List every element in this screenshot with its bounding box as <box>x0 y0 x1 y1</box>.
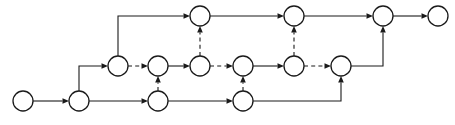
graph-node-b1[interactable] <box>69 91 89 111</box>
graph-arrowhead-e18 <box>338 76 344 83</box>
edge-layer <box>33 13 428 104</box>
graph-arrowhead-e10 <box>325 63 332 69</box>
graph-arrowhead-e19 <box>380 26 386 33</box>
graph-arrowhead-e02 <box>142 98 149 104</box>
node-circle-m3[interactable] <box>233 56 253 76</box>
node-circle-t2[interactable] <box>373 6 393 26</box>
graph-node-b2[interactable] <box>148 91 168 111</box>
graph-arrowhead-e04 <box>102 63 109 69</box>
graph-node-m1[interactable] <box>148 56 168 76</box>
graph-diagram <box>0 0 455 125</box>
graph-node-m0[interactable] <box>108 56 128 76</box>
node-circle-b1[interactable] <box>69 91 89 111</box>
node-circle-m2[interactable] <box>190 56 210 76</box>
graph-arrowhead-e03 <box>227 98 234 104</box>
graph-arrowhead-e05 <box>184 13 191 19</box>
graph-edge-e18 <box>253 83 341 102</box>
graph-node-m4[interactable] <box>284 56 304 76</box>
node-circle-m4[interactable] <box>284 56 304 76</box>
graph-arrowhead-e15 <box>278 13 285 19</box>
graph-canvas <box>0 0 455 125</box>
graph-arrowhead-e07 <box>184 63 191 69</box>
graph-arrowhead-e17 <box>422 13 429 19</box>
node-circle-m0[interactable] <box>108 56 128 76</box>
node-circle-b2[interactable] <box>148 91 168 111</box>
node-circle-m1[interactable] <box>148 56 168 76</box>
graph-arrowhead-e14 <box>291 26 297 33</box>
graph-arrowhead-e08 <box>227 63 234 69</box>
graph-arrowhead-e13 <box>197 26 203 33</box>
graph-node-t2[interactable] <box>373 6 393 26</box>
graph-arrowhead-e09 <box>278 63 285 69</box>
graph-arrowhead-e11 <box>155 76 161 83</box>
node-circle-t1[interactable] <box>284 6 304 26</box>
graph-edge-e04 <box>79 66 102 91</box>
graph-edge-e19 <box>351 33 383 67</box>
node-circle-b3[interactable] <box>233 91 253 111</box>
node-circle-t0[interactable] <box>190 6 210 26</box>
node-circle-m5[interactable] <box>331 56 351 76</box>
graph-node-b3[interactable] <box>233 91 253 111</box>
graph-node-m5[interactable] <box>331 56 351 76</box>
graph-arrowhead-e12 <box>240 76 246 83</box>
graph-node-t1[interactable] <box>284 6 304 26</box>
graph-node-t3[interactable] <box>428 6 448 26</box>
graph-arrowhead-e06 <box>142 63 149 69</box>
graph-arrowhead-e01 <box>63 98 70 104</box>
graph-edge-e05 <box>118 16 184 56</box>
node-circle-b0[interactable] <box>13 91 33 111</box>
graph-node-b0[interactable] <box>13 91 33 111</box>
graph-node-t0[interactable] <box>190 6 210 26</box>
graph-node-m2[interactable] <box>190 56 210 76</box>
graph-arrowhead-e16 <box>367 13 374 19</box>
graph-node-m3[interactable] <box>233 56 253 76</box>
node-circle-t3[interactable] <box>428 6 448 26</box>
